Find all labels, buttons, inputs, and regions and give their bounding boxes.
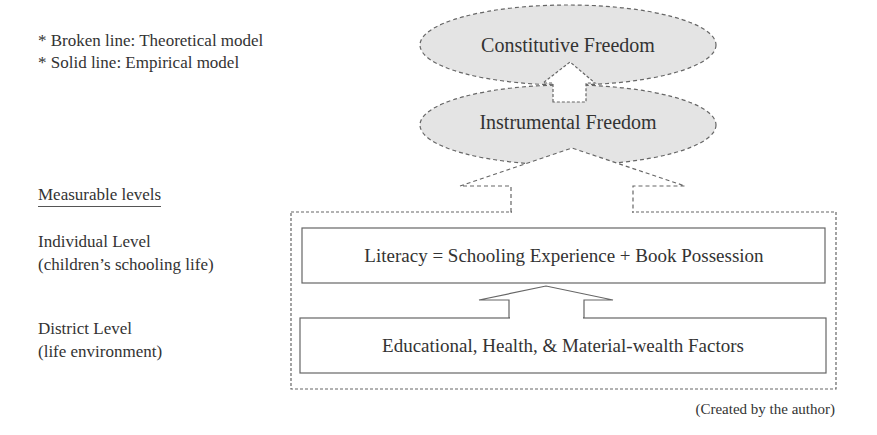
instrumental-freedom-label: Instrumental Freedom — [479, 111, 657, 133]
factors-label: Educational, Health, & Material-wealth F… — [382, 335, 744, 356]
credit-note: (Created by the author) — [695, 401, 835, 418]
empirical-arrow — [479, 286, 613, 318]
constitutive-freedom-label: Constitutive Freedom — [481, 34, 655, 56]
diagram-canvas: Constitutive Freedom Instrumental Freedo… — [0, 0, 877, 435]
literacy-label: Literacy = Schooling Experience + Book P… — [364, 245, 764, 266]
